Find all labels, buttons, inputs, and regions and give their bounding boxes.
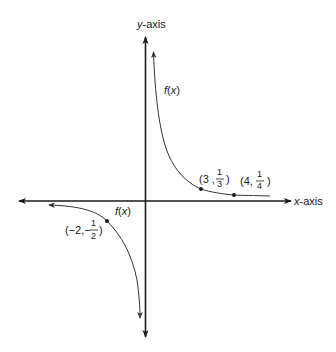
svg-text:2: 2 xyxy=(91,231,96,241)
svg-text:(−2,−: (−2,− xyxy=(65,224,91,236)
svg-text:): ) xyxy=(267,175,271,187)
svg-text:4: 4 xyxy=(257,181,262,191)
point-4-quarter xyxy=(232,193,236,197)
curve-label-upper: f(x) xyxy=(164,84,180,96)
point-label-neg2-neg-half: (−2,− 1 2 ) xyxy=(65,218,103,241)
svg-text:1: 1 xyxy=(257,169,262,179)
function-graph: y-axis x-axis f(x) f(x) (3 , 1 3 ) (4, 1… xyxy=(0,0,336,352)
svg-text:): ) xyxy=(226,173,230,185)
svg-text:3: 3 xyxy=(217,179,222,189)
point-label-4-quarter: (4, 1 4 ) xyxy=(240,169,271,191)
svg-text:1: 1 xyxy=(91,218,96,228)
curve-lower-branch xyxy=(49,205,107,221)
curve-label-lower: f(x) xyxy=(115,205,131,217)
svg-text:): ) xyxy=(99,224,103,236)
y-axis-label: y-axis xyxy=(136,18,166,30)
x-axis-label: x-axis xyxy=(293,195,323,207)
curve-lower-branch-down xyxy=(107,221,140,318)
point-neg2-neg-half xyxy=(105,219,109,223)
svg-text:(4,: (4, xyxy=(240,175,253,187)
svg-text:(3 ,: (3 , xyxy=(199,173,215,185)
point-label-3-third: (3 , 1 3 ) xyxy=(199,167,230,189)
svg-text:1: 1 xyxy=(217,167,222,177)
point-3-third xyxy=(199,187,203,191)
